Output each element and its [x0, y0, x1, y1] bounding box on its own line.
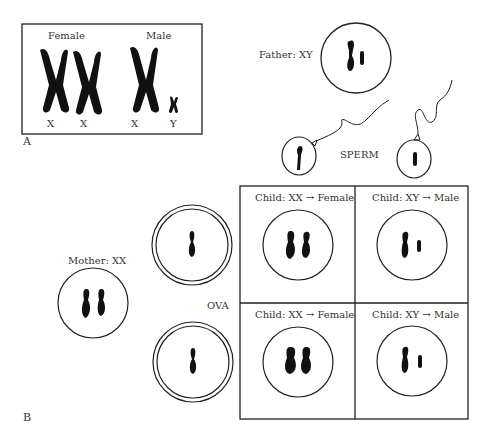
- panel-a-label: A: [23, 135, 31, 148]
- female-x-chromosome-2: [73, 51, 102, 115]
- panel-b-label: B: [23, 411, 31, 424]
- ovum-1: [152, 205, 232, 285]
- child-cell-1: [263, 210, 333, 280]
- sperm-y-tail: [415, 80, 452, 134]
- punnett-cell-label-4: Child: XY → Male: [372, 309, 459, 320]
- male-label: Male: [146, 30, 171, 41]
- female-label: Female: [48, 30, 85, 41]
- diagram-canvas: [0, 0, 486, 440]
- mother-cell: [58, 268, 128, 338]
- sperm-y-neck: [414, 134, 420, 140]
- child-cell-2: [377, 210, 447, 280]
- sperm-x-chromosome: [297, 146, 303, 170]
- male-y-chromosome: [169, 97, 178, 113]
- mother-label: Mother: XX: [68, 255, 126, 266]
- punnett-cell-label-1: Child: XX → Female: [255, 192, 354, 203]
- child-cell-3: [263, 327, 333, 397]
- chromosome-label-x1: X: [47, 118, 54, 129]
- sperm-y-chromosome: [413, 152, 417, 166]
- chromosome-label-x3: X: [131, 118, 138, 129]
- punnett-cell-label-2: Child: XY → Male: [372, 192, 459, 203]
- child-cell-4: [377, 326, 447, 396]
- chromosome-label-x2: X: [80, 118, 87, 129]
- father-y-chromosome: [360, 51, 364, 65]
- father-x-chromosome: [347, 41, 354, 72]
- ova-label: OVA: [207, 300, 229, 311]
- father-label: Father: XY: [259, 49, 313, 60]
- ovum-2: [153, 322, 233, 402]
- female-x-chromosome-1: [40, 49, 69, 113]
- sperm-label: SPERM: [340, 149, 379, 160]
- father-cell: [321, 23, 391, 93]
- punnett-cell-label-3: Child: XX → Female: [255, 309, 354, 320]
- sperm-x-tail: [316, 100, 389, 141]
- chromosome-label-y: Y: [170, 118, 177, 129]
- male-x-chromosome: [130, 47, 159, 113]
